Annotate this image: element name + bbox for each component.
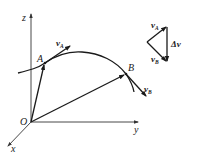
- velocity-b-label: vB: [144, 84, 152, 95]
- velocity-a-subscript: A: [59, 43, 64, 49]
- delta-v-label: Δv: [170, 39, 182, 49]
- point-b-label: B: [128, 62, 134, 73]
- velocity-b-subscript: B: [147, 89, 152, 95]
- kinematics-diagram: z y x O A B vA vB vA vB Δv: [0, 0, 199, 162]
- triangle-label-a: vA: [151, 20, 159, 31]
- velocity-vector-a: [45, 46, 70, 63]
- point-b-marker: [125, 73, 128, 76]
- position-vector-a: [31, 65, 44, 122]
- y-axis-label: y: [133, 124, 139, 135]
- triangle-label-b: vB: [151, 54, 159, 65]
- x-axis-label: x: [10, 143, 16, 154]
- origin-label: O: [20, 116, 27, 127]
- point-a-label: A: [36, 53, 44, 64]
- coordinate-axes: [8, 14, 138, 146]
- triangle-a-subscript: A: [154, 25, 159, 31]
- point-a-marker: [44, 62, 47, 65]
- velocity-vector-b: [126, 74, 146, 96]
- velocity-a-label: vA: [56, 38, 64, 49]
- z-axis-label: z: [21, 12, 26, 23]
- velocity-change-triangle: vA vB Δv: [147, 20, 182, 65]
- trajectory-curve: [18, 52, 134, 92]
- position-vector-b: [31, 75, 124, 122]
- triangle-b-subscript: B: [154, 59, 159, 65]
